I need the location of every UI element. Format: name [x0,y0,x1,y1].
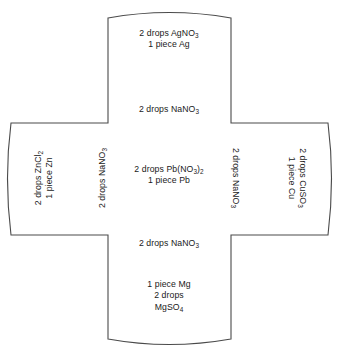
salt-bridge-right-text: 2 drops NaNO3 [229,148,240,208]
cell-bottom-line3: MgSO4 [0,302,338,313]
cell-bottom-line2: 2 drops [0,290,338,301]
salt-bridge-label-top: 2 drops NaNO3 [0,104,338,115]
cell-label-top: 2 drops AgNO3 1 piece Ag [0,28,338,51]
cell-left-line1: 2 drops ZnCl2 [33,151,44,205]
cell-left-text: 2 drops ZnCl2 1 piece Zn [33,151,56,205]
cell-label-bottom: 1 piece Mg 2 drops MgSO4 [0,279,338,313]
salt-bridge-label-bottom: 2 drops NaNO3 [0,238,338,249]
cell-right-line2: 1 piece Cu [286,148,297,208]
cross-diagram: 2 drops AgNO3 1 piece Ag 2 drops NaNO3 2… [0,0,338,355]
salt-bridge-left-text: 2 drops NaNO3 [97,148,108,208]
cell-right-line1: 2 drops CuSO3 [297,148,308,208]
cell-bottom-line1: 1 piece Mg [0,279,338,290]
cell-top-line2: 1 piece Ag [0,39,338,50]
cell-right-text: 2 drops CuSO3 1 piece Cu [286,148,309,208]
cell-left-line2: 1 piece Zn [44,151,55,205]
cell-top-line1: 2 drops AgNO3 [0,28,338,39]
